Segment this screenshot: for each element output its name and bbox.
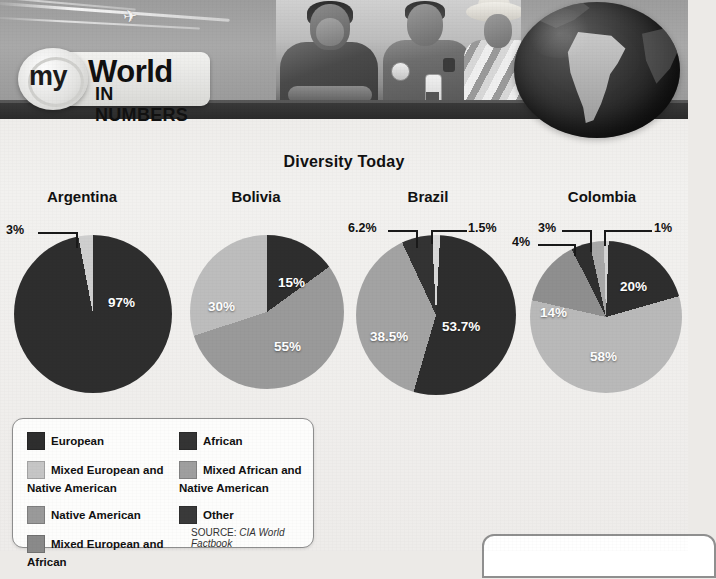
pie-label-53-7: 53.7% xyxy=(442,319,480,334)
legend-item: Native American xyxy=(27,505,177,525)
leader-line xyxy=(431,230,433,244)
legend-label: Mixed European and African xyxy=(27,538,163,568)
people-photo xyxy=(276,0,521,110)
logo-my-text: my xyxy=(29,61,67,92)
legend-label: European xyxy=(51,435,104,447)
chart-title-bolivia: Bolivia xyxy=(170,188,342,205)
pie-argentina: 97% 3% xyxy=(0,227,168,402)
legend-swatch-mixed-african-native-american xyxy=(179,461,197,479)
person-center xyxy=(381,0,473,110)
pie-colombia: 20% 58% 14% 4% 3% 1% xyxy=(516,227,688,402)
chart-panel-colombia: Colombia 20% 58% 14% 4% 3% 1% xyxy=(516,188,688,402)
legend-item: Mixed European and Native American xyxy=(27,460,177,496)
chart-title-argentina: Argentina xyxy=(0,188,168,205)
pie-callout-3: 3% xyxy=(538,221,556,235)
pie-brazil: 53.7% 38.5% 6.2% 1.5% xyxy=(342,227,514,402)
source-prefix: SOURCE: xyxy=(191,527,239,538)
globe-shine xyxy=(524,8,594,58)
chart-panel-bolivia: Bolivia 15% 55% 30% xyxy=(170,188,342,402)
leader-line xyxy=(574,244,576,256)
pie-slices-brazil xyxy=(356,235,516,395)
pie-label-58: 58% xyxy=(590,349,617,364)
leader-line xyxy=(604,230,652,232)
leader-line xyxy=(38,232,78,234)
leader-line xyxy=(590,230,592,252)
leader-line xyxy=(604,230,606,246)
pie-callout-3: 3% xyxy=(6,223,24,237)
bottom-right-panel xyxy=(482,534,716,578)
chart-panel-brazil: Brazil 53.7% 38.5% 6.2% 1.5% xyxy=(342,188,514,402)
pie-bolivia: 15% 55% 30% xyxy=(170,227,342,402)
legend-swatch-mixed-european-african xyxy=(27,535,45,553)
pie-label-97: 97% xyxy=(108,295,135,310)
pie-label-55: 55% xyxy=(274,339,301,354)
my-world-in-numbers-logo: my World IN NUMBERS xyxy=(18,48,210,110)
pie-slices-argentina xyxy=(14,235,172,393)
page-title: Diversity Today xyxy=(0,153,688,171)
africa-shape xyxy=(642,28,680,86)
logo-in-numbers-text: IN NUMBERS xyxy=(95,84,210,126)
pie-label-30: 30% xyxy=(208,299,235,314)
legend-label: Native American xyxy=(51,509,141,521)
legend-box: European Mixed European and Native Ameri… xyxy=(12,418,314,548)
pie-label-15: 15% xyxy=(278,275,305,290)
legend-swatch-other xyxy=(179,506,197,524)
leader-line xyxy=(388,230,418,232)
legend-swatch-european xyxy=(27,432,45,450)
legend-column-left: European Mixed European and Native Ameri… xyxy=(27,431,177,579)
pie-callout-4: 4% xyxy=(512,235,530,249)
legend-item: Mixed European and African xyxy=(27,534,177,570)
leader-line xyxy=(562,230,592,232)
leader-line xyxy=(538,244,576,246)
pie-label-20: 20% xyxy=(620,279,647,294)
chart-title-colombia: Colombia xyxy=(516,188,688,205)
leader-line xyxy=(416,230,418,248)
pie-label-14: 14% xyxy=(540,305,567,320)
legend-item: European xyxy=(27,431,177,451)
source-credit: SOURCE: CIA World Factbook xyxy=(191,527,313,549)
legend-label: Other xyxy=(203,509,234,521)
legend-label: Mixed African and Native American xyxy=(179,464,302,494)
legend-swatch-mixed-european-native-american xyxy=(27,461,45,479)
pie-callout-1: 1% xyxy=(654,221,672,235)
chart-title-brazil: Brazil xyxy=(342,188,514,205)
legend-item: Mixed African and Native American xyxy=(179,460,307,496)
person-left xyxy=(280,2,378,110)
chart-panel-argentina: Argentina 97% 3% xyxy=(0,188,168,402)
pie-label-38-5: 38.5% xyxy=(370,329,408,344)
legend-label: Mixed European and Native American xyxy=(27,464,163,494)
person-right xyxy=(466,0,521,110)
pie-callout-6-2: 6.2% xyxy=(348,221,377,235)
airplane-icon: ✈ xyxy=(122,7,138,26)
leader-line xyxy=(431,230,467,232)
legend-swatch-native-american xyxy=(27,506,45,524)
pie-callout-1-5: 1.5% xyxy=(468,221,497,235)
legend-swatch-african xyxy=(179,432,197,450)
leader-line xyxy=(76,232,78,248)
legend-column-right: African Mixed African and Native America… xyxy=(179,431,307,534)
legend-item: Other xyxy=(179,505,307,525)
globe-icon xyxy=(514,2,680,138)
legend-label: African xyxy=(203,435,243,447)
legend-item: African xyxy=(179,431,307,451)
